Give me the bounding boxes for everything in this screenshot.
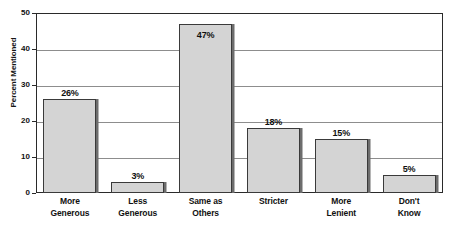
bar-group: 3% bbox=[111, 13, 164, 193]
x-axis-category-label: Don'tKnow bbox=[375, 196, 443, 219]
y-axis-tick-mark bbox=[32, 193, 36, 194]
y-axis-tick-label: 0 bbox=[3, 189, 30, 197]
y-axis-title: Percent Mentioned bbox=[9, 13, 18, 133]
x-axis-category-label: MoreLenient bbox=[307, 196, 375, 219]
y-axis-tick-label: 50 bbox=[3, 9, 30, 17]
bar[interactable]: 18% bbox=[247, 128, 300, 193]
bar-group: 15% bbox=[315, 13, 368, 193]
x-axis-category-label-line: Lenient bbox=[307, 208, 375, 220]
bar-value-label: 18% bbox=[248, 117, 299, 127]
y-axis-tick-label: 30 bbox=[3, 81, 30, 89]
x-axis-category-label-line: Don't bbox=[375, 196, 443, 208]
x-axis-category-label-line: Same as bbox=[172, 196, 240, 208]
bar[interactable]: 26% bbox=[43, 99, 96, 193]
y-axis-tick-label: 40 bbox=[3, 45, 30, 53]
bar-value-label: 47% bbox=[180, 30, 231, 40]
bar-value-label: 26% bbox=[44, 88, 95, 98]
x-axis-category-labels: MoreGenerousLessGenerousSame asOthersStr… bbox=[36, 196, 443, 226]
bar-value-label: 3% bbox=[112, 171, 163, 181]
y-axis-tick-label: 20 bbox=[3, 117, 30, 125]
bar-group: 26% bbox=[43, 13, 96, 193]
bar-group: 5% bbox=[383, 13, 436, 193]
x-axis-category-label: LessGenerous bbox=[104, 196, 172, 219]
y-axis-tick-label: 10 bbox=[3, 153, 30, 161]
x-axis-category-label: Same asOthers bbox=[172, 196, 240, 219]
bar[interactable]: 15% bbox=[315, 139, 368, 193]
x-axis-category-label-line: Generous bbox=[36, 208, 104, 220]
x-axis-category-label-line: Others bbox=[172, 208, 240, 220]
x-axis-category-label-line: More bbox=[307, 196, 375, 208]
x-axis-category-label-line: Stricter bbox=[240, 196, 308, 208]
x-axis-category-label-line: Less bbox=[104, 196, 172, 208]
bar-value-label: 5% bbox=[384, 164, 435, 174]
bar-group: 47% bbox=[179, 13, 232, 193]
bar[interactable]: 3% bbox=[111, 182, 164, 193]
bar-group: 18% bbox=[247, 13, 300, 193]
x-axis-category-label: Stricter bbox=[240, 196, 308, 208]
bars-layer: 26%3%47%18%15%5% bbox=[36, 13, 443, 193]
bar-value-label: 15% bbox=[316, 128, 367, 138]
x-axis-category-label-line: More bbox=[36, 196, 104, 208]
x-axis-category-label: MoreGenerous bbox=[36, 196, 104, 219]
bar[interactable]: 47% bbox=[179, 24, 232, 193]
bar[interactable]: 5% bbox=[383, 175, 436, 193]
x-axis-category-label-line: Know bbox=[375, 208, 443, 220]
bar-chart: Percent Mentioned 50403020100 26%3%47%18… bbox=[0, 0, 449, 226]
x-axis-category-label-line: Generous bbox=[104, 208, 172, 220]
